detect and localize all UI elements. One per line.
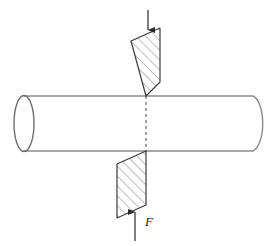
cylinder-body xyxy=(14,96,263,152)
upper-shear-plane-face xyxy=(131,28,160,96)
force-label: F xyxy=(144,214,154,229)
lower-shear-plane xyxy=(117,151,146,218)
diagram-canvas: F xyxy=(0,0,275,246)
shear-force-diagram: F xyxy=(0,0,275,246)
cylinder-left-face-ellipse xyxy=(14,96,34,152)
cylinder-right-cap xyxy=(253,96,263,151)
upper-shear-plane xyxy=(131,28,160,96)
lower-shear-plane-face xyxy=(117,151,146,218)
